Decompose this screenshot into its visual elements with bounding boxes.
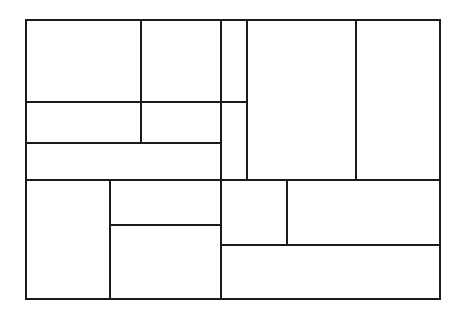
divider-vertical — [355, 19, 357, 181]
divider-vertical — [220, 19, 222, 300]
divider-horizontal — [25, 142, 222, 144]
divider-vertical — [246, 19, 248, 181]
frame-right — [439, 19, 441, 300]
divider-horizontal — [220, 244, 441, 246]
divider-vertical — [286, 179, 288, 246]
frame-left — [25, 19, 27, 300]
rectangle-diagram — [0, 0, 462, 312]
divider-vertical — [109, 179, 111, 300]
frame-top — [25, 19, 441, 21]
frame-bottom — [25, 298, 441, 300]
divider-horizontal — [25, 179, 441, 181]
divider-vertical — [140, 19, 142, 144]
divider-horizontal — [25, 101, 248, 103]
divider-horizontal — [109, 224, 222, 226]
